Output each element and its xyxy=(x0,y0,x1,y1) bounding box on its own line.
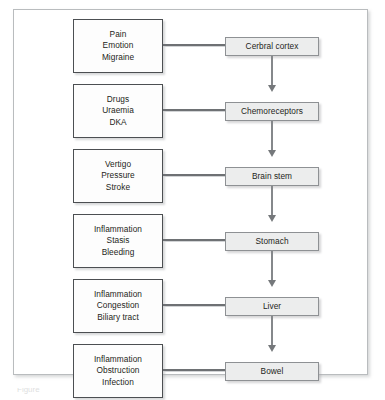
diagram-panel: Pain Emotion Migraine Cerbral cortex Dru… xyxy=(13,9,368,375)
site-label: Bowel xyxy=(261,367,284,376)
cause-box: Vertigo Pressure Stroke xyxy=(73,149,163,203)
cause-box: Pain Emotion Migraine xyxy=(73,19,163,73)
cause-box: Inflammation Congestion Biliary tract xyxy=(73,279,163,333)
cause-line: Biliary tract xyxy=(97,312,139,324)
cause-line: Obstruction xyxy=(97,365,140,377)
cause-line: Drugs xyxy=(107,94,129,106)
cause-box: Inflammation Stasis Bleeding xyxy=(73,214,163,268)
site-box: Bowel xyxy=(225,362,319,381)
site-label: Chemoreceptors xyxy=(241,107,303,116)
cause-to-site-connector xyxy=(163,369,225,372)
cause-to-site-connector xyxy=(163,44,225,47)
cause-line: Congestion xyxy=(97,300,139,312)
cause-line: Vertigo xyxy=(105,159,131,171)
cause-line: Uraemia xyxy=(102,105,134,117)
diagram-row: Pain Emotion Migraine Cerbral cortex xyxy=(14,19,367,75)
flow-arrow-shaft xyxy=(271,316,273,347)
cause-line: Bleeding xyxy=(102,247,135,259)
cause-line: Pain xyxy=(110,29,127,41)
cause-line: Infection xyxy=(102,377,134,389)
site-box: Chemoreceptors xyxy=(225,102,319,121)
cause-line: Pressure xyxy=(101,170,135,182)
cause-line: Emotion xyxy=(103,40,134,52)
flow-arrow-shaft xyxy=(271,121,273,152)
cause-line: DKA xyxy=(109,117,126,129)
cause-line: Inflammation xyxy=(94,224,142,236)
diagram-row: Inflammation Stasis Bleeding Stomach xyxy=(14,214,367,270)
cause-box: Drugs Uraemia DKA xyxy=(73,84,163,138)
cause-line: Migraine xyxy=(102,52,134,64)
cause-to-site-connector xyxy=(163,239,225,242)
site-box: Brain stem xyxy=(225,167,319,186)
diagram-row: Vertigo Pressure Stroke Brain stem xyxy=(14,149,367,205)
flow-arrow-shaft xyxy=(271,251,273,282)
cause-to-site-connector xyxy=(163,174,225,177)
flow-arrow-shaft xyxy=(271,186,273,217)
cause-line: Inflammation xyxy=(94,289,142,301)
figure-caption-text: Figure xyxy=(17,388,177,394)
site-label: Cerbral cortex xyxy=(246,42,299,51)
cause-to-site-connector xyxy=(163,304,225,307)
diagram-row: Inflammation Congestion Biliary tract Li… xyxy=(14,279,367,335)
site-box: Liver xyxy=(225,297,319,316)
cause-line: Stroke xyxy=(106,182,130,194)
site-box: Stomach xyxy=(225,232,319,251)
site-label: Stomach xyxy=(255,237,288,246)
diagram-row: Drugs Uraemia DKA Chemoreceptors xyxy=(14,84,367,140)
cause-line: Stasis xyxy=(107,235,130,247)
cause-line: Inflammation xyxy=(94,354,142,366)
figure-caption-fragment: Figure xyxy=(17,388,177,395)
site-box: Cerbral cortex xyxy=(225,37,319,56)
cause-to-site-connector xyxy=(163,109,225,112)
site-label: Brain stem xyxy=(252,172,292,181)
flow-arrow-shaft xyxy=(271,56,273,87)
site-label: Liver xyxy=(263,302,281,311)
